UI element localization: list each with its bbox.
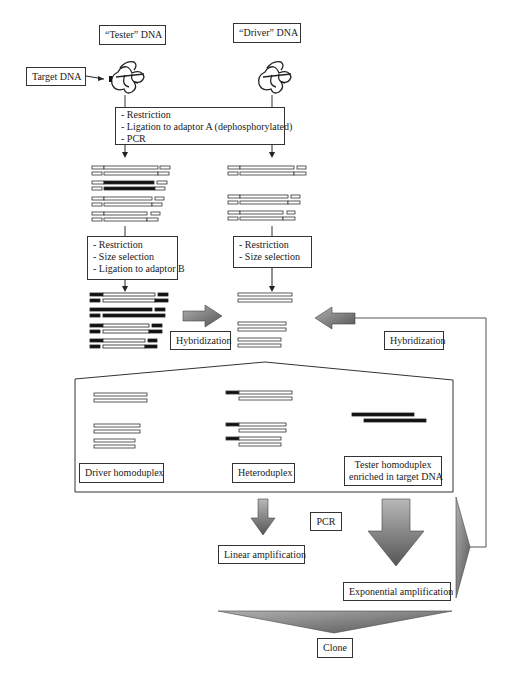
target-dna-label: Target DNA — [26, 67, 86, 86]
tester-dna-coil-icon — [109, 62, 144, 93]
step2-tester-box: - Restriction - Size selection - Ligatio… — [87, 236, 178, 280]
driver-homoduplex-label: Driver homoduplex — [79, 463, 164, 483]
step1-line-2: - Ligation to adaptor A (dephosphorylate… — [121, 121, 279, 133]
step1-box: - Restriction - Ligation to adaptor A (d… — [115, 107, 285, 145]
tester-fragments-1 — [92, 166, 170, 221]
hybridization-left-arrow-icon — [315, 307, 355, 329]
exponential-amplification-label: Exponential amplification — [343, 582, 451, 601]
linear-arrow-icon — [251, 499, 275, 535]
tester-homoduplex-line-1: Tester homoduplex — [349, 459, 437, 471]
step2-driver-line-2: - Size selection — [239, 251, 306, 263]
step2-tester-line-1: - Restriction — [93, 239, 172, 251]
driver-fragments-1 — [228, 166, 306, 220]
step2-tester-line-3: - Ligation to adaptor B — [93, 263, 172, 275]
step2-driver-box: - Restriction - Size selection — [233, 236, 312, 268]
feedback-right-arrow-icon — [456, 497, 470, 598]
hybridization-label-right: Hybridization — [384, 331, 444, 350]
tester-fragments-2 — [90, 293, 168, 348]
tester-homoduplex-line-2: enriched in target DNA — [349, 471, 437, 483]
driver-fragments-2 — [238, 293, 292, 347]
hybridization-right-arrow-icon — [183, 305, 222, 327]
driver-dna-coil-icon — [259, 62, 291, 93]
down-arrow-icon — [122, 145, 275, 158]
step1-line-3: - PCR — [121, 133, 279, 145]
step1-line-1: - Restriction — [121, 109, 279, 121]
driver-dna-label: “Driver” DNA — [233, 23, 301, 43]
step2-driver-line-1: - Restriction — [239, 239, 306, 251]
clone-arrow-icon — [218, 611, 452, 633]
linear-amplification-label: Linear amplification — [218, 545, 305, 564]
heteroduplex-label: Heteroduplex — [232, 463, 295, 483]
step2-tester-line-2: - Size selection — [93, 251, 172, 263]
clone-label: Clone — [317, 638, 353, 658]
exponential-arrow-icon — [368, 499, 424, 566]
target-arrow — [86, 76, 104, 81]
pcr-label: PCR — [310, 512, 342, 531]
hybridization-label-left: Hybridization — [170, 331, 231, 350]
tester-homoduplex-label: Tester homoduplex enriched in target DNA — [344, 456, 442, 486]
tester-dna-label: “Tester” DNA — [99, 25, 166, 45]
